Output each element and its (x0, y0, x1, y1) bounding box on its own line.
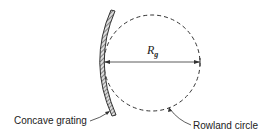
arrowhead-right-icon (194, 60, 200, 64)
grating-label: Concave grating (14, 115, 87, 126)
rowland-circle (104, 15, 200, 111)
circle-leader (170, 109, 191, 125)
circle-label: Rowland circle (193, 120, 258, 131)
arrowhead-left-icon (104, 60, 110, 64)
radius-label: Rg (147, 43, 158, 59)
